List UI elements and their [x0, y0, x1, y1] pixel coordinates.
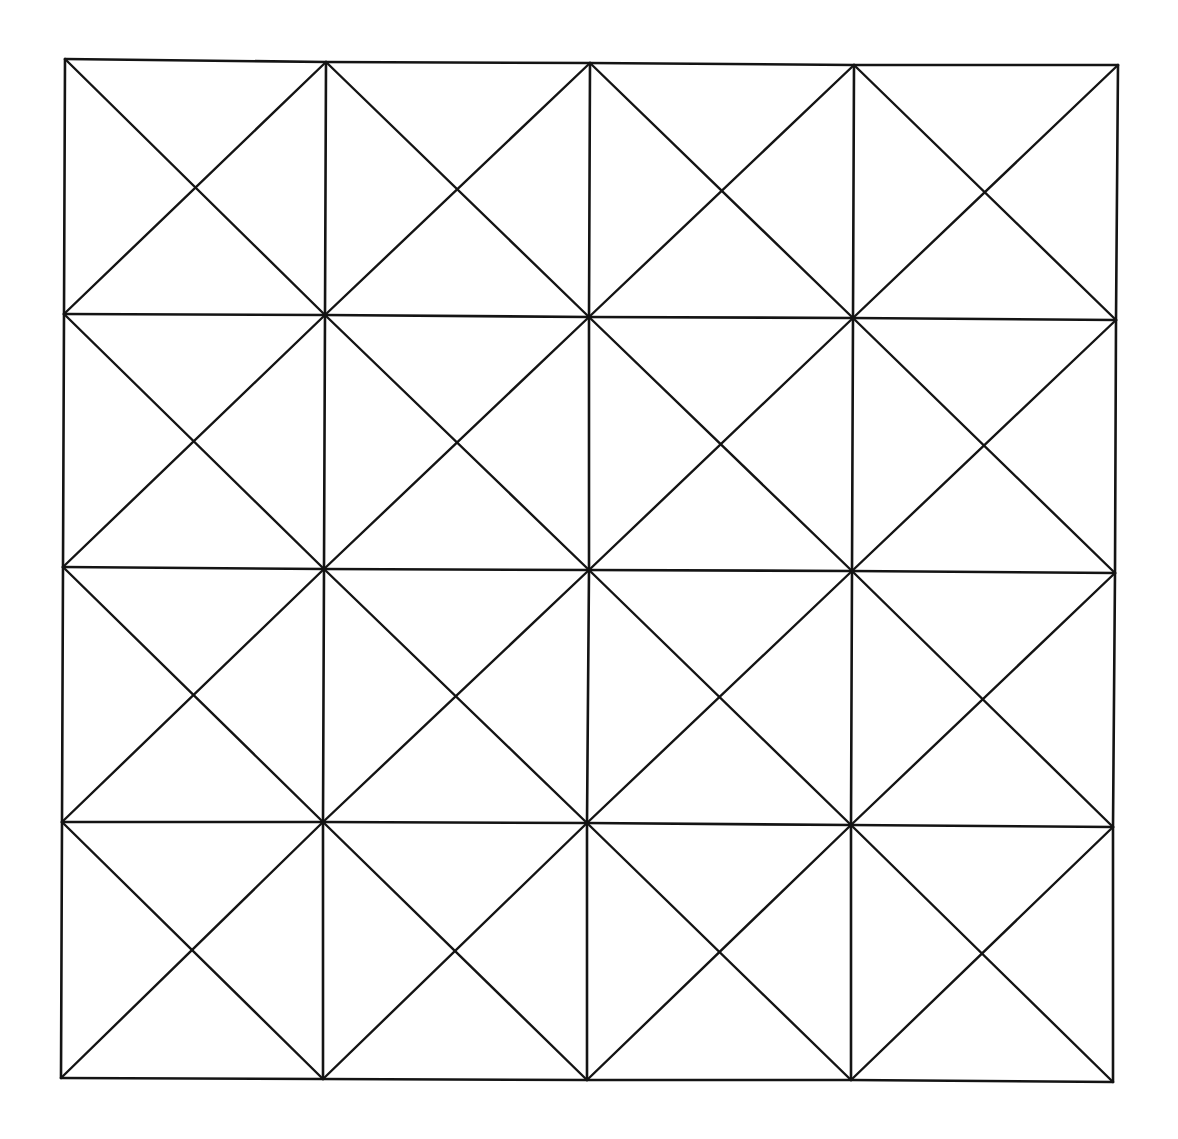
horizontal-line: [325, 315, 589, 317]
vertical-line: [589, 63, 590, 317]
cell-diagonal-up: [851, 573, 1115, 825]
horizontal-line: [851, 825, 1113, 827]
horizontal-line: [853, 318, 1116, 320]
horizontal-line: [851, 1080, 1113, 1082]
cell-diagonal-up: [852, 320, 1116, 571]
vertical-line: [324, 315, 325, 569]
horizontal-line: [852, 571, 1115, 573]
vertical-line: [853, 65, 854, 318]
horizontal-line: [589, 317, 853, 318]
vertical-line: [1115, 320, 1116, 573]
vertical-line: [64, 59, 65, 314]
horizontal-line: [61, 1078, 323, 1079]
vertical-line: [323, 569, 324, 822]
vertical-line: [61, 822, 62, 1078]
cell-diagonal-up: [587, 571, 852, 823]
horizontal-line: [63, 567, 324, 569]
vertical-line: [63, 314, 64, 567]
vertical-line: [851, 571, 852, 825]
horizontal-line: [323, 1079, 587, 1080]
vertical-line: [325, 62, 326, 315]
vertical-line: [62, 567, 63, 822]
vertical-line: [1113, 573, 1115, 827]
vertical-line: [1116, 65, 1118, 320]
horizontal-line: [324, 569, 589, 570]
vertical-line: [587, 570, 589, 823]
horizontal-line: [589, 570, 852, 571]
horizontal-line: [65, 59, 326, 62]
horizontal-line: [323, 822, 587, 823]
vertical-line: [852, 318, 853, 571]
horizontal-line: [587, 823, 851, 825]
horizontal-line: [590, 63, 854, 65]
horizontal-line: [64, 314, 325, 315]
horizontal-line: [326, 62, 590, 63]
grid-diagram: [0, 0, 1178, 1139]
